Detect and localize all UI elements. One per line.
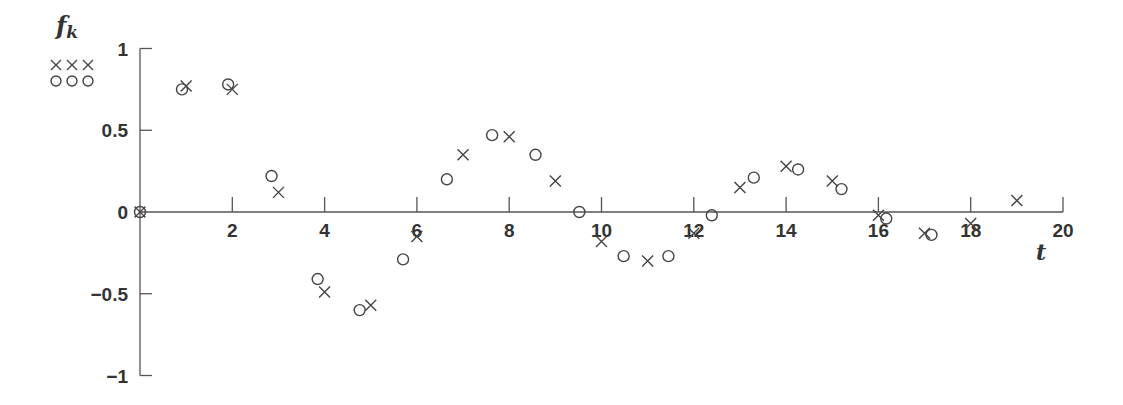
x-tick-label: 4 <box>319 220 330 241</box>
y-tick-label: −0.5 <box>90 284 128 305</box>
circle-marker <box>618 251 629 262</box>
circle-marker <box>926 229 937 240</box>
circle-marker <box>398 254 409 265</box>
x-tick-label: 8 <box>504 220 515 241</box>
circle-marker <box>441 174 452 185</box>
x-axis: 2468101214161820 <box>140 197 1074 241</box>
cross-marker <box>273 187 284 198</box>
y-axis-title-sub: k <box>66 22 78 42</box>
x-tick-label: 2 <box>227 220 238 241</box>
cross-marker <box>365 300 376 311</box>
x-tick-label: 16 <box>868 220 889 241</box>
cross-marker <box>550 175 561 186</box>
y-tick-label: 1 <box>117 39 128 60</box>
y-tick-label: 0 <box>117 202 128 223</box>
x-tick-label: 6 <box>412 220 423 241</box>
cross-marker <box>51 60 61 70</box>
circle-marker <box>67 76 77 86</box>
circle-marker <box>51 76 61 86</box>
x-tick-label: 14 <box>776 220 798 241</box>
cross-marker <box>781 161 792 172</box>
cross-marker <box>67 60 77 70</box>
cross-marker <box>458 149 469 160</box>
series-cross-markers <box>135 81 1023 311</box>
circle-marker <box>793 164 804 175</box>
circle-marker <box>266 171 277 182</box>
x-tick-label: 20 <box>1052 220 1073 241</box>
cross-marker <box>504 131 515 142</box>
cross-marker <box>642 256 653 267</box>
series-circle-markers <box>135 79 937 316</box>
x-tick-label: 10 <box>591 220 612 241</box>
scatter-chart: 10.50−0.5−1 2468101214161820 fk t <box>0 0 1123 405</box>
cross-marker <box>83 60 93 70</box>
circle-marker <box>312 274 323 285</box>
legend <box>51 60 93 86</box>
cross-marker <box>827 175 838 186</box>
cross-marker <box>734 182 745 193</box>
y-tick-label: −1 <box>106 366 128 387</box>
cross-marker <box>919 228 930 239</box>
circle-marker <box>83 76 93 86</box>
circle-marker <box>530 149 541 160</box>
circle-marker <box>836 184 847 195</box>
circle-marker <box>354 305 365 316</box>
cross-marker <box>319 287 330 298</box>
cross-marker <box>1011 195 1022 206</box>
x-tick-label: 12 <box>683 220 704 241</box>
circle-marker <box>663 251 674 262</box>
y-tick-label: 0.5 <box>102 120 129 141</box>
circle-marker <box>487 130 498 141</box>
circle-marker <box>748 172 759 183</box>
y-axis-title: fk <box>54 11 78 42</box>
x-axis-title: t <box>1036 239 1046 265</box>
